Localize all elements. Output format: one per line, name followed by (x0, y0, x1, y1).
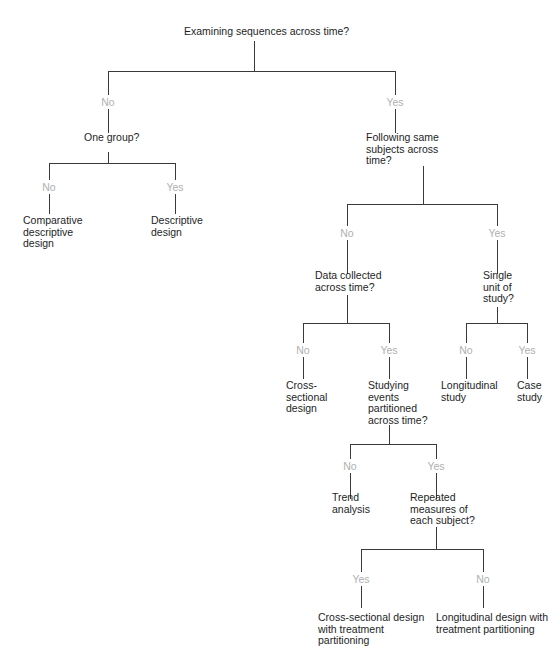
question-studying-events: Studying events partitioned across time? (368, 380, 428, 426)
connector (350, 444, 437, 445)
question-following-same-subjects: Following same subjects across time? (366, 132, 439, 167)
connector (347, 204, 498, 205)
outcome-cross-sectional: Cross- sectional design (286, 380, 327, 415)
outcome-case-study: Case study (517, 380, 542, 403)
edge-label-yes: Yes (488, 226, 505, 240)
edge-label-no: No (101, 95, 114, 109)
connector (108, 71, 396, 72)
outcome-trend-analysis: Trend analysis (332, 492, 370, 515)
edge-label-yes: Yes (386, 95, 403, 109)
outcome-descriptive: Descriptive design (151, 215, 203, 238)
connector (303, 323, 390, 324)
outcome-comparative-descriptive: Comparative descriptive design (23, 215, 83, 250)
outcome-cross-sectional-treatment: Cross-sectional design with treatment pa… (318, 612, 424, 647)
edge-label-yes: Yes (427, 459, 444, 473)
question-data-collected: Data collected across time? (315, 270, 382, 293)
question-one-group: One group? (84, 132, 139, 144)
connector (436, 527, 437, 550)
question-repeated-measures: Repeated measures of each subject? (410, 492, 475, 527)
connector (466, 323, 528, 324)
edge-label-yes: Yes (352, 572, 369, 586)
edge-label-yes: Yes (380, 343, 397, 357)
connector (49, 163, 175, 164)
question-single-unit: Single unit of study? (483, 270, 514, 305)
edge-label-no: No (296, 343, 309, 357)
edge-label-no: No (42, 180, 55, 194)
connector (423, 166, 424, 205)
connector (361, 549, 484, 550)
outcome-longitudinal-study: Longitudinal study (441, 380, 498, 403)
outcome-longitudinal-treatment: Longitudinal design with treatment parti… (436, 612, 548, 635)
edge-label-yes: Yes (166, 180, 183, 194)
edge-label-yes: Yes (518, 343, 535, 357)
connector (347, 295, 348, 324)
connector (497, 307, 498, 324)
connector (389, 425, 390, 445)
edge-label-no: No (459, 343, 472, 357)
edge-label-no: No (343, 459, 356, 473)
edge-label-no: No (476, 572, 489, 586)
edge-label-no: No (340, 226, 353, 240)
connector (254, 41, 255, 71)
question-root: Examining sequences across time? (184, 26, 349, 38)
